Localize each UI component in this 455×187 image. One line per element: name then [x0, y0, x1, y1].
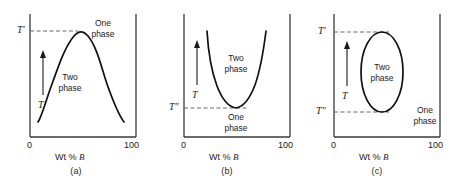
x-axis-label: Wt % B	[55, 152, 85, 162]
x-axis-tick-min: 0	[331, 140, 336, 150]
region-label-two-phase: Two phase	[216, 53, 256, 74]
x-axis-tick-min: 0	[181, 140, 186, 150]
x-axis-label: Wt % B	[209, 152, 239, 162]
region-two-phase-line2: phase	[224, 64, 247, 74]
panel-b-caption: (b)	[151, 166, 303, 176]
critical-temp-label-lower: T″	[169, 102, 179, 112]
x-axis-tick-max: 100	[428, 140, 443, 150]
region-label-one-phase: One phase	[216, 112, 256, 133]
region-one-phase-line2: phase	[413, 116, 436, 126]
temperature-axis-label: T	[342, 91, 348, 101]
region-label-one-phase: One phase	[83, 18, 123, 39]
x-axis-label-species: B	[233, 152, 239, 162]
temperature-axis-label: T	[192, 90, 198, 100]
region-two-phase-line1: Two	[228, 53, 244, 63]
panel-c: T′ T″ T Two phase One phase 0 100 Wt % B…	[301, 0, 453, 187]
x-axis-label: Wt % B	[359, 152, 389, 162]
panel-c-caption: (c)	[301, 166, 453, 176]
x-axis-tick-max: 100	[278, 140, 293, 150]
region-label-two-phase: Two phase	[362, 62, 402, 83]
x-axis-label-prefix: Wt %	[359, 152, 381, 162]
temperature-axis-arrowhead	[344, 41, 350, 49]
temperature-axis-arrowhead	[40, 50, 46, 58]
panel-a-caption: (a)	[0, 166, 152, 176]
x-axis-tick-max: 100	[124, 140, 139, 150]
region-one-phase-line1: One	[228, 112, 244, 122]
region-one-phase-line1: One	[95, 18, 111, 28]
phase-diagram-figure: T′ T Two phase One phase 0 100 Wt % B (a…	[0, 0, 455, 187]
critical-temp-label-upper: T′	[318, 26, 326, 36]
region-two-phase-line1: Two	[62, 72, 78, 82]
region-label-two-phase: Two phase	[50, 72, 90, 93]
region-two-phase-line2: phase	[370, 73, 393, 83]
region-one-phase-line1: One	[417, 105, 433, 115]
panel-a: T′ T Two phase One phase 0 100 Wt % B (a…	[0, 0, 152, 187]
x-axis-label-prefix: Wt %	[55, 152, 77, 162]
temperature-axis-label: T	[38, 100, 44, 110]
region-one-phase-line2: phase	[91, 29, 114, 39]
critical-temp-label-lower: T″	[316, 106, 326, 116]
region-label-one-phase: One phase	[405, 105, 445, 126]
critical-temp-label-upper: T′	[17, 25, 25, 35]
region-one-phase-line2: phase	[224, 123, 247, 133]
panel-b: T″ T Two phase One phase 0 100 Wt % B (b…	[151, 0, 303, 187]
x-axis-label-species: B	[383, 152, 389, 162]
x-axis-label-prefix: Wt %	[209, 152, 231, 162]
region-two-phase-line1: Two	[374, 62, 390, 72]
x-axis-label-species: B	[79, 152, 85, 162]
x-axis-tick-min: 0	[27, 140, 32, 150]
temperature-axis-arrowhead	[194, 40, 200, 48]
region-two-phase-line2: phase	[58, 83, 81, 93]
